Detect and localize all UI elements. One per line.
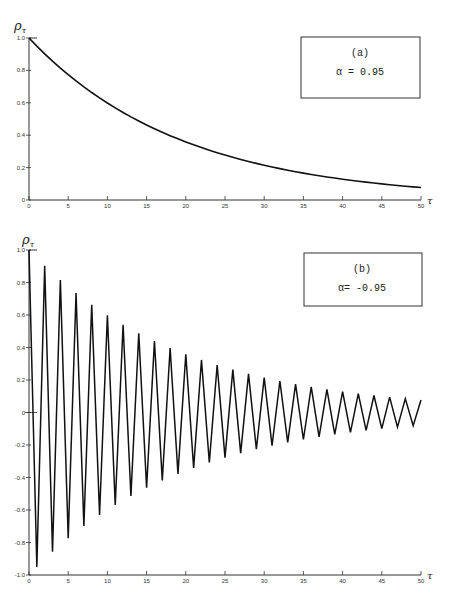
y-tick-label: 0.6 <box>17 312 26 318</box>
x-tick-label: 30 <box>261 578 268 584</box>
x-tick-label: 35 <box>300 203 307 209</box>
panel-a-ylabel: ρτ <box>13 18 27 35</box>
y-tick-label: -0.8 <box>15 540 26 546</box>
panel-b-legend-box <box>304 253 422 306</box>
y-tick-label: 0.2 <box>17 165 26 171</box>
figure: ρτ 00.20.40.60.81.005101520253035404550 … <box>0 0 449 593</box>
y-tick-label: -0.6 <box>15 507 26 513</box>
y-tick-label: -1.0 <box>15 572 26 578</box>
panel-a-axes: 00.20.40.60.81.005101520253035404550 <box>17 35 425 209</box>
x-tick-label: 10 <box>104 203 111 209</box>
x-tick-label: 25 <box>222 578 229 584</box>
y-tick-label: 0.6 <box>17 100 26 106</box>
panel-a-chart: ρτ 00.20.40.60.81.005101520253035404550 … <box>13 18 433 209</box>
panel-b-label: (b) <box>353 264 371 275</box>
y-tick-label: 0.4 <box>17 345 26 351</box>
x-tick-label: 5 <box>67 578 71 584</box>
x-tick-label: 30 <box>261 203 268 209</box>
y-tick-label: 0.8 <box>17 67 26 73</box>
x-tick-label: 50 <box>418 578 425 584</box>
panel-a-series-line <box>29 38 421 188</box>
x-tick-label: 15 <box>143 578 150 584</box>
x-tick-label: 25 <box>222 203 229 209</box>
x-tick-label: 0 <box>27 578 31 584</box>
panel-b-series-line <box>29 250 421 567</box>
panel-b-chart: ρτ -1.0-0.8-0.6-0.4-0.200.20.40.60.81.00… <box>15 232 433 584</box>
y-tick-label: 0.8 <box>17 280 26 286</box>
panel-a-param: α = 0.95 <box>336 67 384 78</box>
y-tick-label: 0.2 <box>17 377 26 383</box>
x-tick-label: 45 <box>378 203 385 209</box>
x-tick-label: 20 <box>182 578 189 584</box>
y-tick-label: -0.2 <box>15 442 26 448</box>
y-tick-label: 1.0 <box>17 35 26 41</box>
x-tick-label: 50 <box>418 203 425 209</box>
x-tick-label: 0 <box>27 203 31 209</box>
x-tick-label: 40 <box>339 578 346 584</box>
x-tick-label: 15 <box>143 203 150 209</box>
x-tick-label: 20 <box>182 203 189 209</box>
y-tick-label: 0.4 <box>17 132 26 138</box>
x-tick-label: 10 <box>104 578 111 584</box>
x-tick-label: 45 <box>378 578 385 584</box>
panel-b-param: α= -0.95 <box>338 283 386 294</box>
panel-a-xlabel: τ <box>427 195 433 206</box>
y-tick-label: -0.4 <box>15 475 26 481</box>
y-tick-label: 0 <box>22 197 26 203</box>
panel-b-xlabel: τ <box>427 570 433 581</box>
panel-a-label: (a) <box>351 48 369 59</box>
x-tick-label: 40 <box>339 203 346 209</box>
x-tick-label: 5 <box>67 203 71 209</box>
x-tick-label: 35 <box>300 578 307 584</box>
y-tick-label: 1.0 <box>17 247 26 253</box>
